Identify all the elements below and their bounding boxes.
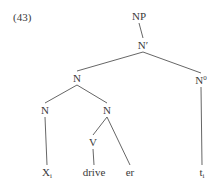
tree-node-nbar: N′ (138, 39, 148, 51)
tree-edge-nbar-n1 (77, 52, 143, 71)
tree-node-n2: N (41, 104, 49, 116)
node-label: N (103, 104, 111, 116)
node-subscript: i (203, 172, 205, 180)
node-label: drive (83, 166, 106, 178)
tree-edge-n2-xi (45, 117, 47, 165)
tree-node-drive: drive (83, 166, 106, 178)
node-subscript: i (50, 172, 52, 180)
node-label: N (138, 39, 146, 51)
tree-node-er: er (126, 166, 135, 178)
node-label: NP (132, 10, 146, 22)
tree-edge-nbar-n0 (143, 52, 201, 73)
node-label: er (126, 166, 135, 178)
tree-edge-n3-v (93, 117, 107, 135)
node-label: V (89, 136, 97, 148)
node-superscript: ′ (146, 39, 148, 51)
tree-edge-n0-ti (201, 87, 202, 165)
tree-edge-v-drive (93, 149, 94, 165)
tree-node-v: V (89, 136, 97, 148)
tree-node-n3: N (103, 104, 111, 116)
tree-edge-np-nbar (139, 23, 143, 38)
tree-node-n1: N (73, 72, 81, 84)
tree-node-np: NP (132, 10, 146, 22)
tree-node-n0: N0 (195, 74, 207, 86)
node-label: N (73, 72, 81, 84)
tree-node-ti: ti (199, 166, 204, 180)
node-label: X (42, 166, 50, 178)
tree-edge-n3-er (107, 117, 130, 165)
tree-node-xi: Xi (42, 166, 52, 180)
tree-nodes: NPN′NN0NNVXidriveerti (41, 10, 207, 180)
example-number: (43) (13, 11, 32, 24)
syntax-tree: (43) NPN′NN0NNVXidriveerti (0, 0, 219, 183)
node-label: N (195, 74, 203, 86)
tree-edges (45, 23, 202, 165)
node-superscript: 0 (203, 74, 207, 82)
tree-edge-n1-n3 (77, 85, 107, 103)
node-label: N (41, 104, 49, 116)
tree-edge-n1-n2 (45, 85, 77, 103)
